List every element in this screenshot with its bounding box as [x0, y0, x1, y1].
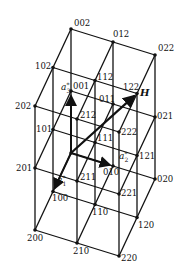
- node-label-122: 122: [123, 82, 139, 92]
- node-label-120: 120: [138, 220, 154, 230]
- lattice-diagram: a*1a*2a*3H 00100201001101202002102210010…: [0, 0, 187, 274]
- node-dot-102: [51, 66, 55, 70]
- lattice-edge: [35, 130, 53, 169]
- node-label-012: 012: [113, 29, 129, 39]
- node-dot-211: [75, 179, 79, 183]
- node-label-200: 200: [27, 233, 43, 243]
- lattice-edge: [35, 168, 77, 181]
- lattice-edge: [119, 218, 137, 257]
- node-label-100: 100: [52, 193, 68, 203]
- node-label-101: 101: [36, 124, 52, 134]
- node-label-010: 010: [103, 167, 119, 177]
- node-label-202: 202: [15, 101, 31, 111]
- lattice-edge: [35, 192, 53, 231]
- node-label-210: 210: [73, 246, 89, 256]
- node-label-112: 112: [97, 72, 113, 82]
- node-label-022: 022: [158, 43, 174, 53]
- node-dot-122: [135, 92, 139, 96]
- node-label-221: 221: [121, 188, 137, 198]
- node-dot-201: [33, 166, 37, 170]
- node-dot-022: [153, 53, 157, 57]
- node-label-011: 011: [99, 94, 115, 104]
- lattice-svg: a*1a*2a*3H 00100201001101202002102210010…: [0, 0, 187, 274]
- node-label-220: 220: [121, 253, 137, 263]
- lattice-edge: [113, 42, 155, 55]
- node-dot-202: [33, 104, 37, 108]
- lattice-edge: [71, 29, 113, 42]
- node-dot-012: [111, 40, 115, 44]
- lattice-edge: [77, 181, 119, 194]
- node-label-212: 212: [80, 110, 96, 120]
- vector-label-a2-star: a*2: [119, 150, 128, 163]
- node-label-102: 102: [35, 61, 51, 71]
- node-label-222: 222: [121, 127, 137, 137]
- node-label-020: 020: [157, 174, 173, 184]
- node-label-121: 121: [139, 151, 155, 161]
- node-dot-210: [75, 241, 79, 245]
- node-dot-000: [69, 151, 73, 155]
- vector-label-a1-star: a*1: [57, 174, 66, 187]
- lattice-edge: [53, 29, 71, 68]
- lattice-edge: [53, 91, 71, 130]
- lattice-edge: [95, 143, 137, 156]
- node-label-110: 110: [92, 207, 108, 217]
- node-dot-200: [33, 228, 37, 232]
- node-label-111: 111: [97, 133, 113, 143]
- lattice-edge: [35, 68, 53, 107]
- h-vector-label: H: [139, 87, 150, 98]
- lattice-edge: [53, 68, 95, 81]
- node-label-201: 201: [16, 163, 32, 173]
- node-label-001: 001: [73, 81, 89, 91]
- node-dot-002: [69, 27, 73, 31]
- lattice-edge: [137, 179, 155, 218]
- node-label-021: 021: [157, 111, 173, 121]
- node-dot-212: [75, 117, 79, 121]
- node-label-211: 211: [80, 172, 96, 182]
- node-label-002: 002: [74, 18, 90, 28]
- vector-label-a3-star: a*3: [61, 81, 70, 94]
